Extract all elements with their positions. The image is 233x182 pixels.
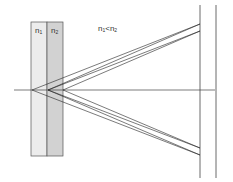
relation-b-sub: 2: [114, 27, 117, 33]
slab-n1: [31, 22, 47, 156]
refractive-index-relation: n1<n2: [98, 25, 117, 33]
slab2-label: n2: [51, 27, 58, 35]
slab2-label-sub: 2: [55, 29, 58, 35]
slab1-label: n1: [35, 27, 42, 35]
slab1-label-sub: 1: [39, 29, 42, 35]
slab-n2: [47, 22, 63, 156]
